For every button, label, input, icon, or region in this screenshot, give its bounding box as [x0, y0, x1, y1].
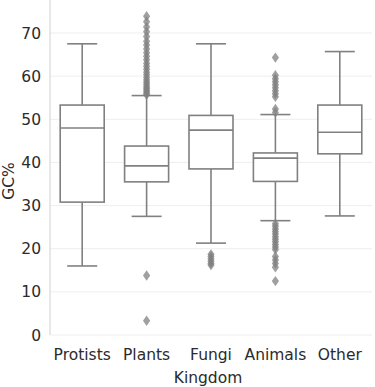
outlier-marker [143, 270, 150, 280]
y-tick-label-50: 50 [21, 111, 41, 129]
iqr-box [318, 105, 362, 154]
iqr-box [125, 146, 169, 182]
x-tick-label-plants: Plants [123, 346, 170, 364]
outlier-marker [272, 276, 279, 286]
x-tick-label-protists: Protists [54, 346, 111, 364]
y-tick-label-20: 20 [21, 240, 41, 258]
box-plot-animals [253, 52, 297, 286]
x-axis-category-labels: ProtistsPlantsFungiAnimalsOther [54, 346, 363, 364]
box-plots-group [60, 11, 362, 326]
x-axis-title: Kingdom [174, 369, 243, 387]
chart-canvas: 010203040506070 ProtistsPlantsFungiAnima… [0, 0, 375, 387]
iqr-box [189, 115, 233, 168]
outlier-marker [272, 52, 279, 62]
x-tick-label-fungi: Fungi [190, 346, 232, 364]
x-tick-label-animals: Animals [245, 346, 307, 364]
iqr-box [60, 105, 104, 202]
y-axis-tick-labels: 010203040506070 [21, 25, 41, 345]
boxplot-chart: 010203040506070 ProtistsPlantsFungiAnima… [0, 0, 375, 387]
box-plot-fungi [189, 44, 233, 271]
y-tick-label-30: 30 [21, 197, 41, 215]
outlier-marker [143, 316, 150, 326]
y-tick-label-10: 10 [21, 283, 41, 301]
y-axis-title: GC% [0, 162, 18, 200]
iqr-box [253, 153, 297, 181]
box-plot-plants [125, 11, 169, 326]
y-tick-label-60: 60 [21, 68, 41, 86]
y-tick-label-40: 40 [21, 154, 41, 172]
y-tick-label-70: 70 [21, 25, 41, 43]
box-plot-protists [60, 44, 104, 266]
y-tick-label-0: 0 [31, 327, 41, 345]
x-tick-label-other: Other [318, 346, 363, 364]
